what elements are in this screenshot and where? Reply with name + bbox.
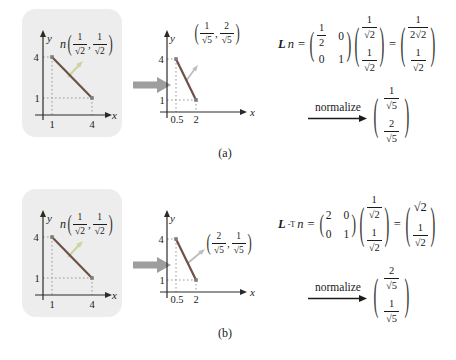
equation-a: L n = ( 12 0 0 1 ) ( 1√2 1√2 ) = ( 12√2 …	[278, 14, 436, 74]
equals-sign: =	[305, 217, 316, 232]
caption-b: (b)	[205, 326, 245, 341]
x-tick-label: 4	[89, 119, 95, 130]
endpoint-marker	[90, 96, 94, 100]
x-tick-label: 0.5	[170, 114, 183, 125]
y-tick-label: 1	[159, 275, 164, 286]
x-axis-arrow-icon	[105, 292, 112, 298]
right-paren: )	[108, 211, 112, 237]
caption-a: (a)	[205, 146, 245, 161]
comma: ,	[215, 27, 219, 45]
y-axis-label: y	[46, 32, 52, 44]
normalized-vector: 2√5 1√5	[384, 266, 399, 324]
x-tick-label: 1	[49, 119, 54, 130]
vector-entry: 1√2	[362, 48, 377, 73]
left-paren: (	[319, 210, 324, 238]
x-axis-label: x	[111, 289, 117, 301]
normalize-label: normalize	[315, 281, 361, 293]
x-axis-arrow-icon	[240, 109, 247, 115]
vector-x-fraction: 1√2	[73, 213, 87, 236]
line-segment	[52, 237, 92, 278]
normalize-arrow-group: normalize	[308, 281, 368, 303]
normal-vector-label: n ( 1√2 , 1√2 )	[60, 33, 113, 56]
equals-sign: =	[296, 37, 307, 52]
comma: ,	[88, 38, 92, 56]
left-paren: (	[405, 198, 410, 251]
endpoint-marker	[194, 98, 198, 102]
panel-a: 4 1 1 4 y x n ( 1√2 , 1√2 )	[0, 0, 456, 180]
x-axis-label: x	[111, 109, 117, 121]
matrix-2x2: 2 0 0 1	[326, 209, 350, 240]
matrix-superscript: -T	[288, 220, 296, 229]
left-paren: (	[194, 20, 198, 46]
matrix-cell: 2	[326, 209, 332, 221]
comma: ,	[88, 218, 92, 236]
panel-b-left-plot-box: 4 1 1 4 y x n ( 1√2 , 1√2 )	[22, 189, 122, 317]
matrix-cell: 0	[338, 30, 344, 42]
left-paren: (	[401, 18, 406, 71]
line-segment	[52, 57, 92, 98]
matrix-symbol: L	[278, 37, 286, 52]
right-paren: )	[235, 20, 239, 46]
x-axis-arrow-icon	[105, 112, 112, 118]
right-paren: )	[380, 18, 385, 71]
left-paren: (	[374, 269, 379, 322]
equals-sign: =	[387, 37, 398, 52]
vector-y-fraction: 1√2	[93, 213, 107, 236]
normal-name: n	[60, 217, 66, 232]
panel-a-mid-plot: 4 1 0.5 2 y x ( 1√5 , 2√5 )	[158, 20, 258, 132]
endpoint-marker	[194, 278, 198, 282]
comma: ,	[227, 237, 231, 255]
left-paren: (	[206, 230, 210, 256]
matrix-cell: 0	[344, 209, 350, 221]
input-vector: 1√2 1√2	[367, 195, 382, 253]
vector-entry: 12√2	[408, 15, 428, 40]
vector-entry: 1√2	[411, 48, 426, 73]
x-tick-label: 1	[49, 299, 54, 310]
left-paren: (	[359, 198, 364, 251]
y-tick-label: 4	[33, 232, 39, 243]
endpoint-marker	[90, 276, 94, 280]
y-axis-label: y	[46, 212, 52, 224]
left-paren: (	[355, 18, 360, 71]
panel-a-left-plot-svg: 4 1 1 4 y x	[22, 9, 122, 137]
normalized-vector: 1√5 2√5	[384, 86, 399, 144]
matrix-cell: 1	[338, 53, 344, 65]
vector-entry: 1√5	[384, 299, 399, 324]
endpoint-marker	[50, 55, 54, 59]
vector-entry: √2	[414, 200, 427, 215]
normal-vector-label: n ( 1√2 , 1√2 )	[60, 213, 113, 236]
panel-b-mid-plot: 4 1 0.5 2 y x ( 2√5 , 1√5 )	[158, 200, 258, 312]
left-paren: (	[374, 89, 379, 142]
normalize-b: normalize ( 2√5 1√5 )	[308, 266, 410, 324]
vector-y-fraction: 2√5	[220, 22, 234, 45]
vector-entry: 2√5	[384, 266, 399, 291]
vector-entry: 2√5	[384, 119, 399, 144]
input-vector: 1√2 1√2	[362, 15, 377, 73]
figure-normal-transformation: 4 1 1 4 y x n ( 1√2 , 1√2 )	[0, 0, 456, 360]
right-paren: )	[352, 210, 357, 238]
x-axis-label: x	[249, 286, 255, 298]
endpoint-marker	[174, 57, 178, 61]
normal-name: n	[60, 37, 66, 52]
y-axis-arrow-icon	[40, 210, 46, 217]
x-tick-label: 0.5	[170, 294, 183, 305]
x-axis-label: x	[249, 106, 255, 118]
normalize-arrow-group: normalize	[308, 101, 368, 123]
normal-vector-arrow	[188, 252, 201, 263]
right-paren: )	[430, 198, 435, 251]
left-paren: (	[67, 31, 71, 57]
y-tick-label: 1	[34, 93, 39, 104]
right-paren: )	[405, 269, 410, 322]
vector-entry: 1√2	[362, 15, 377, 40]
normalize-a: normalize ( 1√5 2√5 )	[308, 86, 410, 144]
result-vector: 12√2 1√2	[408, 15, 428, 73]
y-axis-label: y	[169, 32, 175, 44]
left-paren: (	[67, 211, 71, 237]
vector-x-fraction: 1√2	[73, 33, 87, 56]
result-vector: √2 1√2	[413, 200, 428, 248]
matrix-cell: 0	[319, 53, 325, 65]
right-paren: )	[347, 24, 352, 64]
vector-entry: 1√5	[384, 86, 399, 111]
normal-vector-label: ( 1√5 , 2√5 )	[194, 22, 240, 45]
y-tick-label: 4	[33, 52, 39, 63]
